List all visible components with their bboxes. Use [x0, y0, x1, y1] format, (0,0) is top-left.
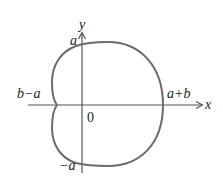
left-intercept-label: b−a — [17, 87, 40, 101]
y-axis-label: y — [79, 18, 85, 32]
bottom-intercept-label: −a — [59, 159, 75, 173]
right-intercept-label: a+b — [167, 87, 190, 101]
limacon-diagram: y a b−a a+b x 0 −a — [0, 0, 223, 178]
limacon-curve — [52, 42, 163, 166]
x-axis-label: x — [205, 98, 211, 112]
top-intercept-label: a — [70, 34, 77, 48]
origin-label: 0 — [87, 111, 94, 125]
